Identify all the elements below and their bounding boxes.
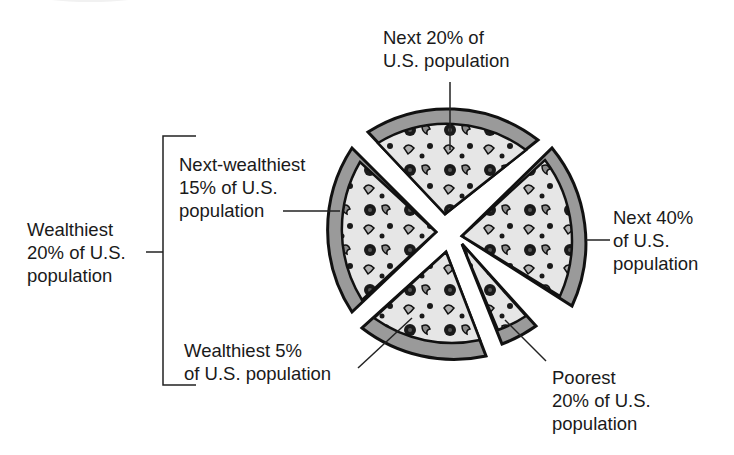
label-poorest-20: Poorest 20% of U.S. population — [552, 366, 651, 435]
label-next-wealthiest-15: Next-wealthiest 15% of U.S. population — [179, 153, 305, 222]
label-next-40: Next 40% of U.S. population — [613, 206, 698, 275]
label-wealthiest-20: Wealthiest 20% of U.S. population — [27, 218, 126, 287]
label-next-20: Next 20% of U.S. population — [383, 26, 510, 72]
label-wealthiest-5: Wealthiest 5% of U.S. population — [184, 339, 331, 385]
